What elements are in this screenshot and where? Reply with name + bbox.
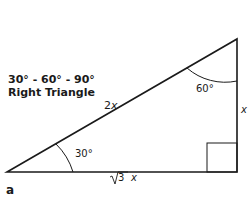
- angle-arc-60: [187, 68, 237, 82]
- title-line-1: 30° - 60° - 90°: [8, 73, 95, 86]
- angle-60-label: 60°: [196, 83, 214, 94]
- triangle: [7, 39, 237, 172]
- right-angle-marker: [207, 143, 237, 172]
- hypotenuse-label: 2x: [104, 99, 118, 112]
- angle-30-label: 30°: [75, 148, 93, 159]
- vertical-side-label: x: [241, 104, 247, 115]
- title-line-2: Right Triangle: [8, 86, 95, 99]
- base-var-label: x: [131, 172, 137, 183]
- figure-label: a: [6, 183, 14, 197]
- triangle-diagram: [0, 0, 251, 205]
- diagram-title: 30° - 60° - 90° Right Triangle: [8, 73, 95, 99]
- base-radical-label: 3: [118, 172, 124, 183]
- angle-arc-30: [56, 144, 73, 172]
